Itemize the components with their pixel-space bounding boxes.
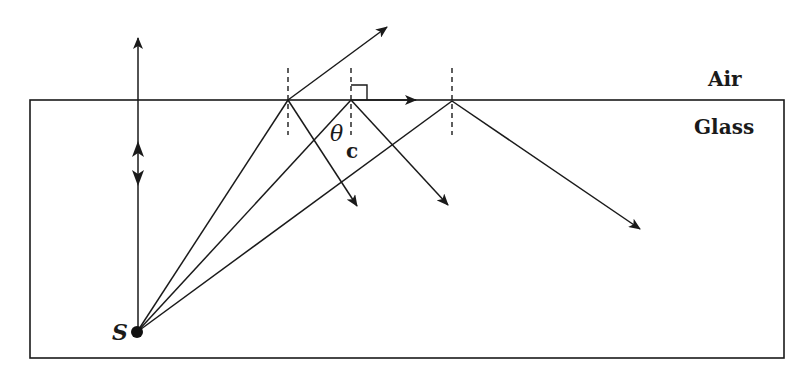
ray-2-reflected — [351, 100, 448, 205]
ray-2 — [137, 85, 448, 332]
ray-1-refracted — [288, 27, 387, 100]
ray-3-reflected — [452, 101, 640, 229]
critical-angle-symbol: θ — [330, 121, 343, 146]
surface-normals — [288, 68, 452, 135]
glass-block — [30, 100, 784, 358]
total-internal-reflection-diagram: Air Glass θ c S — [0, 0, 803, 377]
source-label: S — [112, 319, 128, 345]
right-angle-marker — [351, 85, 367, 100]
ray-1 — [137, 27, 387, 332]
glass-label: Glass — [694, 115, 754, 139]
air-label: Air — [707, 67, 742, 91]
ray-1-incident — [137, 100, 288, 332]
critical-angle-subscript: c — [346, 139, 358, 163]
ray-3-incident — [137, 101, 452, 332]
ray-2-incident — [137, 100, 351, 332]
source-point — [131, 326, 143, 338]
